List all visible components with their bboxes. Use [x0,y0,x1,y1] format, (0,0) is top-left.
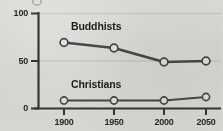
series-buddhists [60,39,210,66]
series-buddhists-marker [202,57,210,65]
gridlines [38,14,221,62]
line-chart [0,0,223,131]
series-christians-marker [60,97,67,104]
series-christians-marker [160,97,167,104]
series-christians-marker [110,97,117,104]
series-buddhists-marker [110,44,118,52]
series-buddhists-line [64,43,206,63]
series-buddhists-marker [160,58,168,66]
series-buddhists-marker [60,39,68,47]
series-christians-line [64,97,206,101]
series-christians-marker [202,93,209,100]
cropped-marker-top-icon [33,0,41,5]
series-christians [60,93,209,104]
